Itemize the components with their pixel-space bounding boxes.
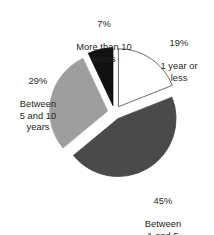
pie-label-percent: 19% (146, 38, 212, 49)
pie-chart: 7% More than 10 years 19% 1 year or less… (0, 0, 214, 235)
pie-label-percent: 45% (128, 196, 198, 207)
pie-label-text: Between 1 and 5 years (128, 219, 198, 235)
pie-label-between-1-and-5-years: 45% Between 1 and 5 years (128, 185, 198, 235)
pie-label-text: Between 5 and 10 years (2, 99, 74, 133)
pie-label-1-year-or-less: 19% 1 year or less (146, 27, 212, 95)
pie-label-text: 1 year or less (146, 61, 212, 84)
pie-label-percent: 7% (52, 19, 156, 30)
pie-label-percent: 29% (2, 76, 74, 87)
pie-label-between-5-and-10-years: 29% Between 5 and 10 years (2, 65, 74, 145)
pie-label-text: More than 10 years (52, 42, 156, 65)
